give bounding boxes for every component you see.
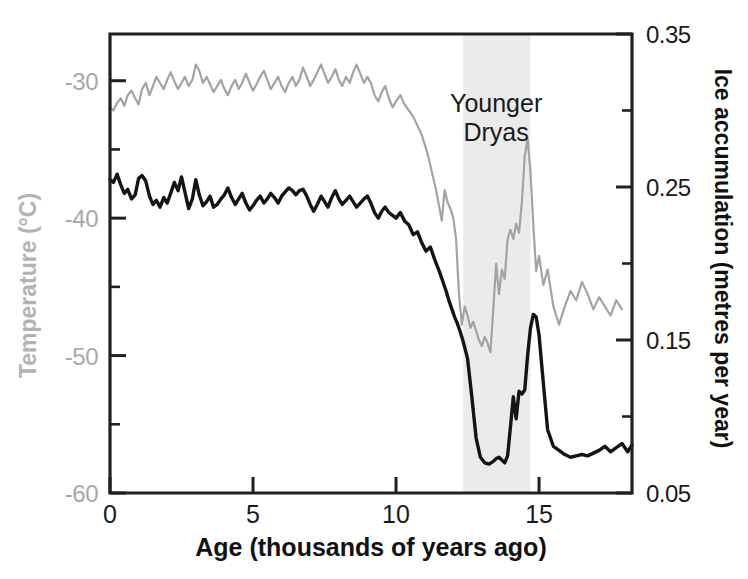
y-axis-right-tick-label: 0.15 bbox=[646, 327, 691, 354]
y-axis-right-title: Ice accumulation (metres per year) bbox=[710, 69, 736, 449]
data-series-layer bbox=[110, 65, 632, 465]
plot-frame bbox=[110, 34, 632, 493]
x-axis-tick-label: 15 bbox=[525, 500, 553, 528]
x-axis-tick-label: 10 bbox=[382, 500, 410, 528]
x-axis-tick-label: 5 bbox=[246, 500, 260, 528]
chart-figure: -30-40-50-600.350.250.150.05051015Temper… bbox=[0, 0, 748, 579]
axis-layer bbox=[110, 34, 632, 493]
y-axis-right-tick-label: 0.05 bbox=[646, 480, 691, 507]
series-line-ice-accumulation bbox=[110, 65, 622, 353]
y-axis-left-tick-label: -30 bbox=[65, 68, 98, 95]
y-axis-left-tick-label: -40 bbox=[65, 205, 98, 232]
series-line-temperature bbox=[110, 174, 632, 464]
y-axis-left-tick-label: -50 bbox=[65, 343, 98, 370]
y-axis-left-title: Temperature (°C) bbox=[15, 193, 41, 378]
x-axis-tick-label: 0 bbox=[103, 500, 117, 528]
chart-canvas: -30-40-50-600.350.250.150.05051015Temper… bbox=[0, 0, 748, 579]
younger-dryas-label-line1: Younger bbox=[450, 89, 542, 117]
younger-dryas-label-line2: Dryas bbox=[463, 118, 528, 146]
y-axis-right-tick-label: 0.25 bbox=[646, 174, 691, 201]
x-axis-title: Age (thousands of years ago) bbox=[195, 533, 546, 561]
y-axis-right-tick-label: 0.35 bbox=[646, 21, 691, 48]
y-axis-left-tick-label: -60 bbox=[65, 480, 98, 507]
